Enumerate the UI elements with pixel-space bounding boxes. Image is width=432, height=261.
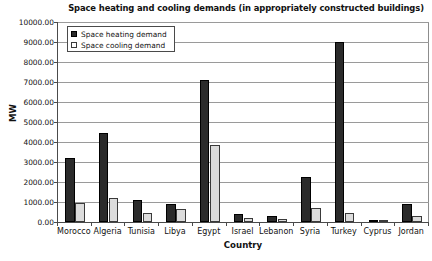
- x-tick-mark: [124, 222, 125, 226]
- legend-item-cooling: Space cooling demand: [71, 40, 171, 50]
- bar-group: [402, 22, 422, 222]
- y-tick-label: 5000.00: [6, 118, 54, 127]
- y-tick-label: 6000.00: [6, 98, 54, 107]
- bar-series-container: [58, 22, 429, 222]
- y-tick-label: 3000.00: [6, 158, 54, 167]
- y-tick-label: 9000.00: [6, 38, 54, 47]
- y-tick-label: 0.00: [6, 218, 54, 227]
- x-tick-label: Cyprus: [363, 227, 391, 236]
- bar-heating: [166, 204, 176, 222]
- bar-cooling: [345, 213, 355, 222]
- bar-heating: [200, 80, 210, 222]
- bar-heating: [267, 216, 277, 222]
- legend-item-heating: Space heating demand: [71, 29, 171, 39]
- legend-swatch-heating-icon: [71, 31, 77, 37]
- x-tick-mark: [293, 222, 294, 226]
- x-tick-mark: [361, 222, 362, 226]
- bar-cooling: [244, 218, 254, 222]
- y-tick-label: 8000.00: [6, 58, 54, 67]
- bar-group: [65, 22, 85, 222]
- y-tick-label: 7000.00: [6, 78, 54, 87]
- x-tick-label: Jordan: [398, 227, 423, 236]
- x-tick-mark: [394, 222, 395, 226]
- x-tick-label: Turkey: [331, 227, 357, 236]
- bar-group: [166, 22, 186, 222]
- bar-group: [267, 22, 287, 222]
- legend-swatch-cooling-icon: [71, 42, 77, 48]
- x-tick-mark: [327, 222, 328, 226]
- chart-figure: Space heating and cooling demands (in ap…: [0, 0, 432, 261]
- x-tick-mark: [57, 222, 58, 226]
- chart-title: Space heating and cooling demands (in ap…: [60, 3, 432, 14]
- bar-cooling: [143, 213, 153, 222]
- bar-group: [335, 22, 355, 222]
- y-axis-tick-labels: 10000.009000.008000.007000.006000.005000…: [0, 0, 54, 261]
- x-tick-mark: [428, 222, 429, 226]
- bar-heating: [335, 42, 345, 222]
- x-tick-label: Tunisia: [128, 227, 155, 236]
- chart-legend: Space heating demand Space cooling deman…: [67, 26, 175, 52]
- x-tick-label: Morocco: [57, 227, 91, 236]
- x-tick-label: Israel: [232, 227, 254, 236]
- y-tick-label: 2000.00: [6, 178, 54, 187]
- bar-heating: [133, 200, 143, 222]
- x-tick-mark: [259, 222, 260, 226]
- x-tick-mark: [192, 222, 193, 226]
- bar-cooling: [412, 216, 422, 222]
- bar-group: [234, 22, 254, 222]
- bar-group: [200, 22, 220, 222]
- bar-heating: [301, 177, 311, 222]
- x-tick-mark: [158, 222, 159, 226]
- x-tick-label: Syria: [300, 227, 320, 236]
- bar-group: [133, 22, 153, 222]
- bar-group: [369, 22, 389, 222]
- x-tick-label: Libya: [164, 227, 185, 236]
- bar-group: [301, 22, 321, 222]
- y-tick-label: 4000.00: [6, 138, 54, 147]
- bar-heating: [369, 220, 379, 222]
- x-axis-label: Country: [57, 240, 429, 250]
- bar-cooling: [210, 145, 220, 222]
- bar-cooling: [75, 203, 85, 222]
- legend-label-heating: Space heating demand: [81, 30, 167, 39]
- bar-cooling: [311, 208, 321, 222]
- bar-heating: [99, 133, 109, 222]
- bar-cooling: [379, 220, 389, 222]
- bar-cooling: [278, 219, 288, 222]
- x-tick-label: Algeria: [94, 227, 122, 236]
- bar-heating: [402, 204, 412, 222]
- y-tick-label: 10000.00: [6, 18, 54, 27]
- x-tick-mark: [91, 222, 92, 226]
- x-tick-label: Egypt: [197, 227, 220, 236]
- bar-cooling: [109, 198, 119, 222]
- x-tick-mark: [226, 222, 227, 226]
- x-tick-label: Lebanon: [259, 227, 293, 236]
- bar-heating: [65, 158, 75, 222]
- legend-label-cooling: Space cooling demand: [81, 41, 165, 50]
- y-tick-label: 1000.00: [6, 198, 54, 207]
- bar-group: [99, 22, 119, 222]
- bar-cooling: [176, 209, 186, 222]
- plot-area: [57, 22, 429, 223]
- bar-heating: [234, 214, 244, 222]
